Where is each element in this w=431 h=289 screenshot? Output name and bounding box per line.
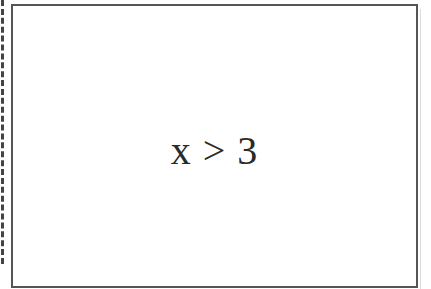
dashed-boundary-line xyxy=(1,0,4,264)
condition-label: x > 3 xyxy=(13,129,416,173)
condition-node-box[interactable]: x > 3 xyxy=(11,4,418,288)
